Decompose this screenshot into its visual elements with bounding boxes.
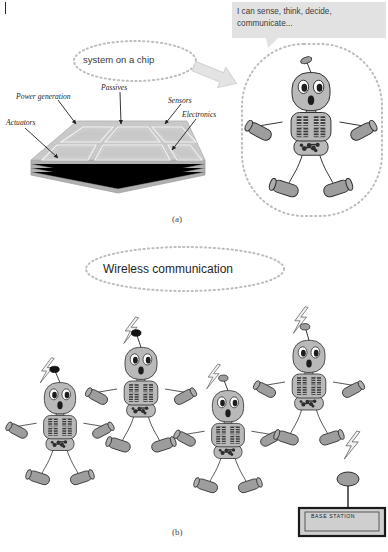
chip-label-power-generation: Power generation	[16, 92, 71, 101]
figure-canvas	[0, 0, 388, 552]
panel-b	[5, 247, 385, 536]
panel-a	[25, 2, 386, 216]
speech-bubble-text: I can sense, think, decide, communicate.…	[237, 6, 383, 29]
robot-figure	[5, 358, 116, 486]
base-station	[299, 431, 385, 536]
chip-label-actuators: Actuators	[6, 118, 36, 127]
chip-label-passives: Passives	[101, 83, 127, 92]
soc-bubble-text: system on a chip	[83, 54, 154, 65]
panel-b-caption: (b)	[172, 527, 183, 537]
chip-label-sensors: Sensors	[168, 96, 192, 105]
base-station-label: BASE STATION	[311, 513, 355, 519]
robot-figure	[244, 55, 379, 198]
robot-figure	[252, 307, 366, 447]
robot-figure	[173, 364, 284, 494]
panel-a-caption: (a)	[172, 214, 182, 224]
chip-label-electronics: Electronics	[182, 110, 216, 119]
block-arrow-icon	[190, 56, 241, 94]
wireless-bubble-text: Wireless communication	[103, 262, 233, 276]
